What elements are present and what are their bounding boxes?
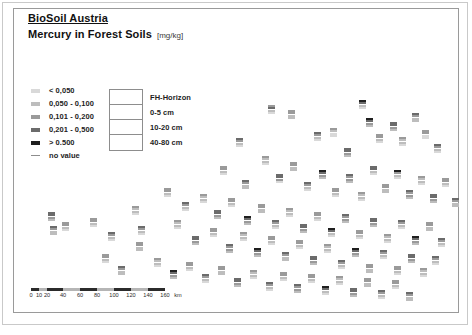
map-site-symbol (430, 194, 437, 204)
site-horizon-bar (382, 191, 389, 193)
scale-bar-segment (131, 288, 148, 291)
map-site-symbol (394, 170, 401, 180)
map-site-symbol (118, 266, 125, 276)
site-horizon-bar (218, 273, 225, 275)
map-site-symbol (304, 182, 311, 192)
site-horizon-bar (202, 281, 209, 283)
map-site-symbol (290, 162, 297, 172)
map-site-symbol (418, 176, 425, 186)
scale-tick-label: 80 (94, 292, 100, 298)
map-site-symbol (276, 174, 283, 184)
site-horizon-bar (406, 197, 413, 199)
map-site-symbol (132, 206, 139, 216)
site-horizon-bar (338, 267, 345, 269)
site-horizon-bar (420, 275, 427, 277)
site-horizon-bar (344, 155, 351, 157)
map-site-symbol (310, 256, 317, 266)
map-site-symbol (398, 220, 405, 230)
map-site-symbol (342, 214, 349, 224)
map-site-symbol (344, 148, 351, 158)
site-horizon-bar (418, 183, 425, 185)
map-site-symbol (432, 256, 439, 266)
map-site-symbol (254, 248, 261, 258)
map-site-symbol (250, 270, 257, 280)
site-horizon-bar (102, 261, 109, 263)
map-site-symbol (108, 232, 115, 242)
site-horizon-bar (336, 283, 343, 285)
scale-bar-segment (31, 288, 39, 291)
site-horizon-bar (294, 291, 301, 293)
page-subtitle: Mercury in Forest Soils [mg/kg] (28, 28, 183, 40)
site-horizon-bar (438, 245, 445, 247)
site-horizon-bar (394, 273, 401, 275)
map-site-symbol (408, 254, 415, 264)
map-site-symbol (350, 288, 357, 298)
scale-bar-ticks: 01020406080100120140160km (31, 292, 191, 302)
site-horizon-bar (392, 287, 399, 289)
site-horizon-bar (390, 129, 397, 131)
site-horizon-bar (432, 263, 439, 265)
map-site-symbol (352, 248, 359, 258)
site-horizon-bar (378, 297, 385, 299)
map-site-symbol (170, 270, 177, 280)
site-horizon-bar (164, 195, 171, 197)
scale-unit-label: km (174, 292, 181, 298)
map-site-symbol (308, 274, 315, 284)
site-horizon-bar (332, 195, 339, 197)
site-horizon-bar (244, 223, 251, 225)
map-site-symbol (200, 194, 207, 204)
map-site-symbol (442, 178, 449, 188)
map-site-symbol (412, 113, 419, 123)
site-horizon-bar (364, 285, 371, 287)
map-site-symbol (336, 276, 343, 286)
site-horizon-bar (324, 251, 331, 253)
site-horizon-bar (200, 201, 207, 203)
site-horizon-bar (356, 237, 363, 239)
site-horizon-bar (399, 144, 406, 146)
site-horizon-bar (319, 177, 326, 179)
map-site-symbol (380, 250, 387, 260)
map-site-symbol (434, 144, 441, 154)
site-horizon-bar (288, 117, 295, 119)
site-horizon-bar (359, 107, 366, 109)
map-site-symbol (236, 138, 243, 148)
site-horizon-bar (376, 141, 383, 143)
site-horizon-bar (384, 241, 391, 243)
map-site-symbol (366, 264, 373, 274)
site-horizon-bar (262, 163, 269, 165)
map-page: BioSoil Austria Mercury in Forest Soils … (0, 0, 472, 335)
map-site-symbol (268, 105, 275, 115)
map-site-symbol (332, 188, 339, 198)
map-site-symbol (420, 268, 427, 278)
site-horizon-bar (50, 233, 57, 235)
site-horizon-bar (282, 259, 289, 261)
site-horizon-bar (214, 217, 221, 219)
page-title: BioSoil Austria (28, 12, 108, 24)
map-site-symbol (182, 202, 189, 212)
site-horizon-bar (258, 211, 265, 213)
map-site-symbol (186, 262, 193, 272)
map-site-symbol (214, 210, 221, 220)
site-horizon-bar (268, 243, 275, 245)
map-site-symbol (328, 228, 335, 238)
site-horizon-bar (322, 293, 329, 295)
site-horizon-bar (254, 255, 261, 257)
map-site-symbol (280, 272, 287, 282)
subtitle-unit: [mg/kg] (157, 31, 183, 40)
site-horizon-bar (234, 285, 241, 287)
map-site-symbol (356, 230, 363, 240)
site-horizon-bar (366, 125, 373, 127)
site-horizon-bar (192, 243, 199, 245)
map-site-symbol (136, 242, 143, 252)
scale-bar-segment (114, 288, 131, 291)
map-site-symbol (366, 118, 373, 128)
map-site-symbol (338, 260, 345, 270)
map-site-symbol (282, 252, 289, 262)
map-site-symbol (296, 240, 303, 250)
map-site-symbol (300, 224, 307, 234)
site-horizon-bar (380, 257, 387, 259)
map-site-symbol (384, 234, 391, 244)
site-horizon-bar (210, 235, 217, 237)
map-site-symbol (50, 226, 57, 236)
map-site-symbol (314, 212, 321, 222)
